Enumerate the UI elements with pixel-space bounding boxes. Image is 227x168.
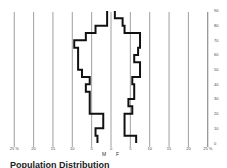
male-profile-line	[74, 11, 107, 143]
x-tick-label: 15	[167, 146, 172, 151]
x-tick-label: 5	[129, 146, 132, 151]
y-tick-label: 70	[214, 38, 219, 43]
gridlines	[14, 12, 208, 147]
female-profile-line	[115, 11, 140, 143]
x-tick-label: 10	[147, 146, 152, 151]
population-pyramid-chart: 25 %20151050510152025 % 0102030405060708…	[0, 0, 227, 168]
x-tick-label: 25 %	[203, 146, 213, 151]
x-tick-label: 10	[70, 146, 75, 151]
y-axis-ticks: 0102030405060708090	[214, 8, 219, 145]
x-tick-label: 25 %	[10, 146, 20, 151]
y-tick-label: 10	[214, 126, 219, 131]
x-axis-ticks: 25 %20151050510152025 %	[10, 146, 213, 151]
y-tick-label: 90	[214, 8, 219, 13]
y-tick-label: 80	[214, 23, 219, 28]
y-tick-label: 30	[214, 96, 219, 101]
x-tick-label: 5	[91, 146, 94, 151]
x-tick-label: 20	[31, 146, 36, 151]
y-tick-label: 40	[214, 82, 219, 87]
y-tick-label: 0	[214, 141, 217, 146]
female-label: F	[116, 151, 119, 157]
x-tick-label: 0	[110, 146, 113, 151]
y-tick-label: 60	[214, 52, 219, 57]
x-tick-label: 20	[186, 146, 191, 151]
x-tick-label: 15	[51, 146, 56, 151]
y-tick-label: 50	[214, 67, 219, 72]
y-tick-label: 20	[214, 111, 219, 116]
male-label: M	[102, 151, 106, 157]
chart-title: Population Distribution	[10, 160, 110, 168]
